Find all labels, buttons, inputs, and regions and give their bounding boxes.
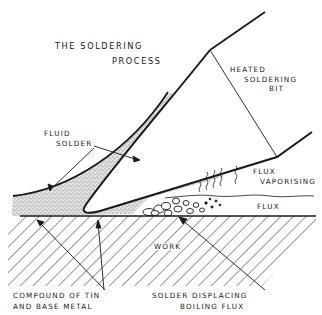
label-solder-displacing-line1: SOLDER DISPLACING [152, 292, 248, 299]
label-heated-line1: HEATED [230, 66, 266, 73]
label-solder-displacing-line2: BOILING FLUX [180, 303, 244, 310]
label-fluid-line1: FLUID [44, 130, 71, 137]
diagram-title-line2: PROCESS [112, 57, 162, 65]
label-work: WORK [153, 243, 182, 250]
work-piece [8, 216, 316, 286]
label-compound-line1: COMPOUND OF TIN [13, 292, 100, 299]
diagram-title-line1: THE SOLDERING [55, 42, 143, 50]
label-flux-vaporising-line1: FLUX [253, 168, 276, 175]
label-flux-vaporising-line2: VAPORISING [260, 178, 316, 185]
flux-layer [165, 195, 314, 198]
soldering-process-diagram [0, 0, 322, 315]
label-fluid-line2: SOLDER [56, 140, 93, 147]
label-compound-line2: AND BASE METAL [13, 303, 93, 310]
label-flux: FLUX [257, 203, 280, 210]
label-heated-line2: SOLDERING [244, 76, 297, 83]
boiling-flux-bubbles [143, 198, 221, 216]
label-heated-line3: BIT [269, 85, 284, 92]
